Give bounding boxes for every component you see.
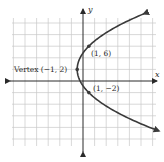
point-1-6 xyxy=(87,44,91,48)
point-1-neg2 xyxy=(87,91,91,95)
parabola-graph: y x Vertex (−1, 2) (1, 6) (1, −2) xyxy=(0,0,164,162)
grid xyxy=(12,18,156,146)
x-axis-label: x xyxy=(155,70,160,79)
vertex-label: Vertex (−1, 2) xyxy=(13,65,67,74)
point-lower-label: (1, −2) xyxy=(93,84,120,93)
y-axis-label: y xyxy=(87,5,93,14)
point-upper-label: (1, 6) xyxy=(91,49,111,58)
vertex-point xyxy=(75,68,79,72)
